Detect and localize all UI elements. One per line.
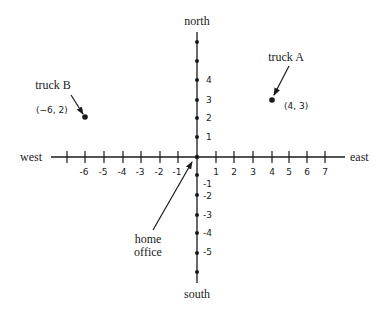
north-label: north	[184, 14, 209, 28]
svg-text:-3: -3	[203, 210, 212, 220]
svg-text:-2: -2	[155, 167, 164, 177]
x-tick-labels: -6 -5 -4 -3 -2 -1 1 2 3 4 5 6 7	[80, 167, 328, 177]
truck-b-marker: truck B (−6, 2)	[35, 78, 88, 120]
truck-b-label: truck B	[35, 78, 71, 92]
svg-text:1: 1	[206, 132, 212, 142]
svg-text:4: 4	[269, 167, 275, 177]
svg-text:-5: -5	[203, 247, 212, 257]
truck-b-point	[82, 114, 88, 120]
truck-b-arrow-icon	[71, 95, 83, 114]
svg-text:-1: -1	[173, 167, 182, 177]
svg-text:3: 3	[206, 95, 212, 105]
svg-text:7: 7	[322, 167, 328, 177]
home-office-label-line2: office	[134, 245, 162, 259]
svg-text:1: 1	[213, 167, 219, 177]
svg-text:-2: -2	[203, 191, 212, 201]
coordinate-diagram: north south east west -6 -5 -4 -3 -2 -1 …	[0, 0, 387, 311]
truck-a-point	[269, 97, 275, 103]
truck-b-coords: (−6, 2)	[36, 105, 68, 115]
west-label: west	[20, 150, 43, 164]
svg-text:6: 6	[304, 167, 310, 177]
svg-text:3: 3	[250, 167, 256, 177]
svg-text:-6: -6	[80, 167, 89, 177]
svg-text:-4: -4	[118, 167, 127, 177]
home-office-label-line1: home	[135, 232, 162, 246]
svg-text:-1: -1	[203, 179, 212, 189]
truck-a-arrow-icon	[274, 66, 289, 95]
svg-text:-5: -5	[99, 167, 108, 177]
svg-text:-4: -4	[203, 228, 212, 238]
truck-a-coords: (4, 3)	[284, 101, 308, 111]
south-label: south	[184, 287, 210, 301]
east-label: east	[350, 150, 369, 164]
y-tick-labels: 4 3 2 1 -1 -2 -3 -4 -5	[203, 75, 212, 257]
truck-a-label: truck A	[268, 50, 304, 64]
svg-text:2: 2	[206, 113, 212, 123]
truck-a-marker: truck A (4, 3)	[268, 50, 308, 111]
svg-text:-3: -3	[136, 167, 145, 177]
svg-text:4: 4	[206, 75, 212, 85]
svg-text:5: 5	[286, 167, 292, 177]
svg-text:2: 2	[231, 167, 237, 177]
